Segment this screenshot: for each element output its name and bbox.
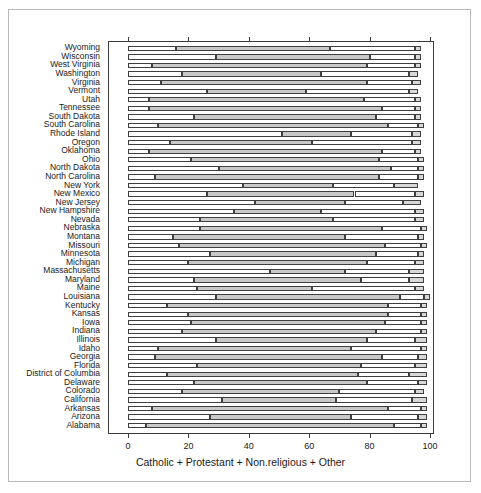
bar-row (128, 286, 430, 291)
x-axis-line (108, 433, 434, 434)
bar-segment-nonreligious (388, 312, 421, 317)
x-tick-label: 20 (183, 441, 193, 451)
bar-segment-catholic (128, 209, 234, 214)
bar-row (128, 294, 430, 299)
bar-row (128, 157, 430, 162)
bar-segment-catholic (128, 71, 182, 76)
bar-segment-catholic (128, 157, 191, 162)
bar-segment-protestant (149, 106, 382, 111)
x-tick (128, 433, 129, 438)
bar-segment-nonreligious (382, 149, 415, 154)
bar-segment-protestant (210, 251, 376, 256)
bar-row (128, 71, 430, 76)
bar-segment-catholic (128, 226, 200, 231)
bar-segment-other (415, 191, 424, 196)
bar-segment-protestant (243, 183, 334, 188)
bar-segment-catholic (128, 354, 155, 359)
bar-row (128, 114, 430, 119)
bar-segment-protestant (191, 157, 378, 162)
bar-segment-protestant (200, 226, 381, 231)
bar-segment-catholic (128, 149, 149, 154)
bar-row (128, 140, 430, 145)
bar-row (128, 243, 430, 248)
bar-segment-catholic (128, 89, 207, 94)
bar-segment-catholic (128, 372, 167, 377)
bar-row (128, 234, 430, 239)
bar-segment-protestant (167, 372, 357, 377)
bar-segment-other (412, 397, 427, 402)
bar-segment-other (421, 226, 427, 231)
bar-segment-catholic (128, 54, 216, 59)
bar-segment-protestant (158, 346, 351, 351)
bar-segment-other (424, 294, 430, 299)
bar-segment-nonreligious (388, 303, 421, 308)
bar-segment-other (403, 200, 421, 205)
bar-segment-other (415, 54, 421, 59)
bar-segment-catholic (128, 312, 188, 317)
bar-segment-catholic (128, 389, 182, 394)
bar-segment-catholic (128, 46, 176, 51)
bars-container (128, 44, 430, 430)
bar-segment-catholic (128, 191, 207, 196)
bar-segment-other (415, 260, 424, 265)
bar-segment-other (421, 320, 427, 325)
bar-segment-protestant (219, 166, 391, 171)
bar-segment-catholic (128, 114, 194, 119)
bar-segment-nonreligious (385, 243, 421, 248)
bar-segment-protestant (222, 397, 337, 402)
bar-row (128, 269, 430, 274)
bar-segment-nonreligious (367, 63, 415, 68)
bar-segment-nonreligious (376, 329, 421, 334)
bar-segment-catholic (128, 80, 161, 85)
bar-segment-catholic (128, 406, 152, 411)
x-tick (430, 433, 431, 438)
bar-segment-other (409, 89, 418, 94)
bar-segment-catholic (128, 320, 191, 325)
bar-segment-protestant (210, 414, 352, 419)
x-tick-top (309, 37, 310, 41)
bar-segment-catholic (128, 303, 167, 308)
bar-segment-other (415, 106, 421, 111)
bar-segment-catholic (128, 251, 210, 256)
bar-segment-nonreligious (379, 157, 418, 162)
bar-segment-protestant (194, 277, 360, 282)
bar-segment-nonreligious (351, 346, 420, 351)
bar-row (128, 226, 430, 231)
bar-row (128, 363, 430, 368)
bar-segment-protestant (152, 406, 388, 411)
bar-segment-protestant (282, 131, 351, 136)
bar-segment-protestant (188, 312, 387, 317)
bar-row (128, 346, 430, 351)
bar-segment-other (415, 217, 424, 222)
bar-segment-protestant (194, 380, 366, 385)
bar-segment-nonreligious (312, 286, 415, 291)
bar-segment-other (415, 46, 421, 51)
bar-row (128, 131, 430, 136)
bar-segment-nonreligious (376, 251, 418, 256)
bar-row (128, 320, 430, 325)
bar-segment-protestant (149, 149, 382, 154)
bar-segment-catholic (128, 286, 197, 291)
bar-row (128, 46, 430, 51)
bar-segment-nonreligious (388, 123, 418, 128)
bar-row (128, 423, 430, 428)
bar-segment-protestant (167, 303, 387, 308)
bar-row (128, 397, 430, 402)
bar-segment-other (415, 337, 427, 342)
bar-segment-nonreligious (382, 106, 415, 111)
figure-canvas: WyomingWisconsinWest VirginiaWashingtonV… (0, 0, 481, 493)
bar-segment-catholic (128, 183, 243, 188)
y-axis-label: Alabama (66, 421, 100, 430)
bar-segment-protestant (200, 217, 333, 222)
bar-segment-nonreligious (321, 71, 409, 76)
bar-segment-other (421, 423, 427, 428)
bar-segment-protestant (182, 329, 375, 334)
bar-segment-protestant (207, 191, 355, 196)
bar-segment-other (409, 269, 424, 274)
bar-row (128, 303, 430, 308)
bar-segment-nonreligious (351, 131, 411, 136)
bar-row (128, 200, 430, 205)
bar-segment-catholic (128, 166, 219, 171)
bar-segment-protestant (270, 269, 346, 274)
bar-row (128, 251, 430, 256)
